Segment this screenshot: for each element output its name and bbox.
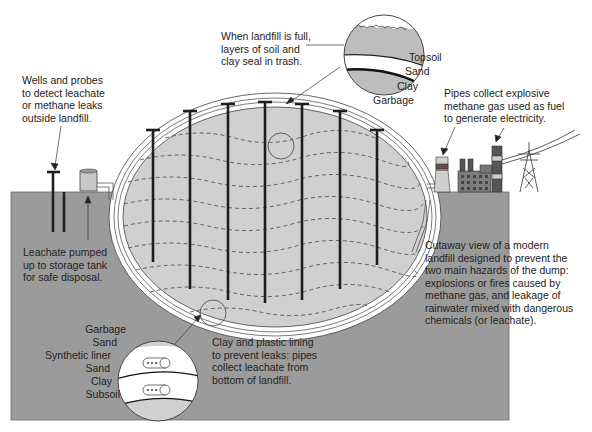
callout-line: for safe disposal. [23,271,107,284]
layer-label-sand-lower: Sand [85,362,110,374]
callout-line: layers of soil and [221,43,311,56]
callout-line: up to storage tank [23,259,107,272]
layer-label-subsoil: Subsoil [86,388,120,400]
layer-label-clay: Clay [397,80,418,92]
wells-callout: Wells and probes to detect leachate or m… [22,74,105,124]
leachate-tank-callout: Leachate pumped up to storage tank for s… [23,246,107,284]
caption-line: two main hazards of the dump: [425,264,573,277]
liner-callout: Clay and plastic lining to prevent leaks… [212,336,317,386]
top-seal-callout: When landfill is full, layers of soil an… [221,30,311,68]
callout-line: or methane leaks [22,99,105,112]
layer-label-garbage: Garbage [373,94,414,106]
callout-line: Clay and plastic lining [212,336,317,349]
layer-label-clay-bottom: Clay [91,375,112,387]
caption-line: Cutaway view of a modern [425,239,573,252]
electricity-pylon [502,130,580,192]
leachate-storage-tank [80,171,97,191]
callout-line: clay seal in trash. [221,55,311,68]
callout-line: bottom of landfill. [212,374,317,387]
callout-line: Leachate pumped [23,246,107,259]
callout-line: to generate electricity. [444,112,564,125]
caption-line: chemicals (or leachate). [425,314,573,327]
callout-line: to prevent leaks: pipes [212,349,317,362]
callout-line: collect leachate from [212,361,317,374]
diagram-caption: Cutaway view of a modern landfill design… [425,239,573,327]
callout-line: to detect leachate [22,87,105,100]
layer-label-topsoil: Topsoil [409,51,442,63]
layer-label-sand: Sand [405,65,430,77]
caption-line: explosions or fires caused by [425,277,573,290]
layer-label-sand-upper: Sand [92,336,117,348]
callout-line: When landfill is full, [221,30,311,43]
callout-line: Pipes collect explosive [444,87,564,100]
callout-line: outside landfill. [22,112,105,125]
layer-label-synthetic-liner: Synthetic liner [45,349,111,361]
caption-line: methane gas, and leakage of [425,289,573,302]
callout-line: methane gas used as fuel [444,100,564,113]
methane-callout: Pipes collect explosive methane gas used… [444,87,564,125]
caption-line: rainwater mixed with dangerous [425,302,573,315]
caption-line: landfill designed to prevent the [425,252,573,265]
callout-line: Wells and probes [22,74,105,87]
layer-label-garbage-bottom: Garbage [85,323,126,335]
